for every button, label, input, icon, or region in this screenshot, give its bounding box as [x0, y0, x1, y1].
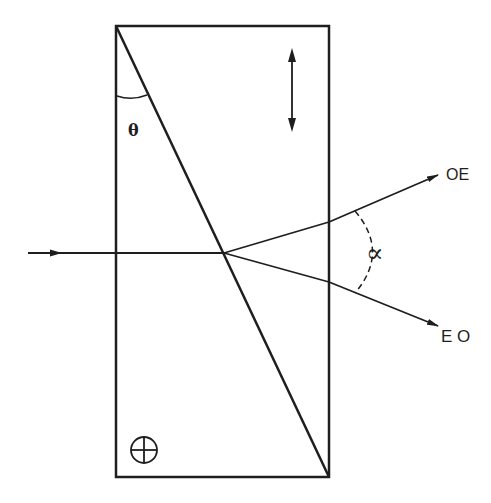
incident-ray-arrow-icon	[50, 250, 62, 257]
theta-label: θ	[128, 121, 139, 140]
prism-diagram: θ ∝ OE E O	[0, 0, 491, 503]
prism-diagonal-interface	[116, 26, 329, 477]
oe-ray-inside	[224, 222, 329, 253]
eo-label: E O	[441, 327, 470, 346]
circle-cross-icon	[131, 437, 157, 463]
double-arrow-icon	[288, 48, 296, 132]
eo-ray-output	[329, 282, 438, 326]
oe-ray-output	[329, 175, 438, 222]
theta-angle-arc	[117, 95, 147, 98]
eo-ray-inside	[224, 253, 329, 282]
oe-label: OE	[446, 166, 469, 183]
alpha-label: ∝	[366, 238, 384, 268]
